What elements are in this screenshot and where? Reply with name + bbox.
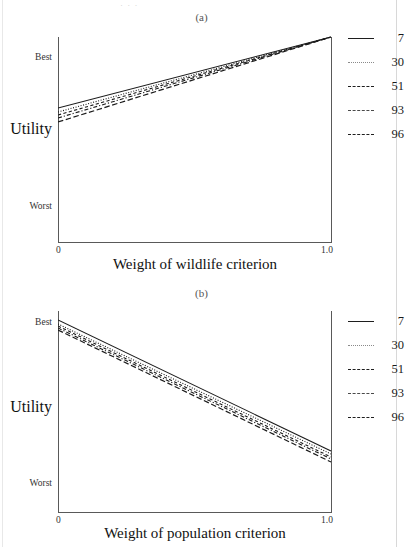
legend-swatch-7-b: [348, 321, 374, 322]
subplot-label-b: (b): [0, 287, 403, 299]
series-line-93-b: [58, 328, 331, 459]
x-tick-0-b: 0: [56, 515, 61, 525]
legend-swatch-7-a: [348, 38, 374, 39]
legend-row-51-a[interactable]: 51: [348, 78, 408, 96]
legend-row-7-a[interactable]: 7: [348, 30, 408, 48]
legend-label-93-b: 93: [378, 385, 404, 402]
legend-swatch-51-a: [348, 86, 374, 87]
series-line-51-b: [58, 326, 331, 457]
y-axis-worst-label-b: Worst: [8, 478, 52, 488]
legend-swatch-96-b: [348, 417, 374, 418]
series-line-96-a: [58, 37, 331, 122]
y-axis-best-label-a: Best: [8, 52, 52, 62]
legend-label-51-a: 51: [378, 78, 404, 95]
legend-swatch-30-a: [348, 62, 374, 63]
legend-swatch-30-b: [348, 345, 374, 346]
legend-swatch-51-b: [348, 369, 374, 370]
legend-row-96-a[interactable]: 96: [348, 126, 408, 144]
y-axis-worst-label-a: Worst: [8, 201, 52, 211]
chart-panel-a: (a) Best Utility Worst 0 1.0 Weight of w…: [0, 0, 403, 280]
x-tick-1-b: 1.0: [321, 515, 333, 525]
legend-row-30-b[interactable]: 30: [348, 337, 408, 355]
series-line-7-b: [58, 320, 331, 451]
x-tick-1-a: 1.0: [321, 245, 333, 255]
legend-row-30-a[interactable]: 30: [348, 54, 408, 72]
x-axis-title-b: Weight of population criterion: [58, 525, 332, 542]
x-tick-0-a: 0: [56, 245, 61, 255]
legend-label-30-b: 30: [378, 337, 404, 354]
legend-row-51-b[interactable]: 51: [348, 361, 408, 379]
y-axis-best-label-b: Best: [8, 317, 52, 327]
legend-label-7-a: 7: [378, 30, 404, 47]
legend-swatch-93-b: [348, 393, 374, 394]
series-line-96-b: [58, 330, 331, 462]
legend-row-93-a[interactable]: 93: [348, 102, 408, 120]
legend-row-7-b[interactable]: 7: [348, 313, 408, 331]
y-axis-title-b: Utility: [2, 398, 52, 416]
series-line-30-b: [58, 324, 331, 454]
legend-swatch-93-a: [348, 110, 374, 111]
y-axis-title-a: Utility: [2, 120, 52, 138]
legend-row-96-b[interactable]: 96: [348, 409, 408, 427]
legend-label-30-a: 30: [378, 54, 404, 71]
legend-label-96-b: 96: [378, 409, 404, 426]
series-plot-b: [58, 311, 332, 513]
series-line-7-a: [58, 37, 331, 108]
legend-label-96-a: 96: [378, 126, 404, 143]
legend-label-7-b: 7: [378, 313, 404, 330]
legend-swatch-96-a: [348, 134, 374, 135]
chart-panel-b: (b) Best Utility Worst 0 1.0 Weight of p…: [0, 280, 403, 547]
legend-label-93-a: 93: [378, 102, 404, 119]
subplot-label-a: (a): [0, 11, 403, 23]
legend-row-93-b[interactable]: 93: [348, 385, 408, 403]
x-axis-title-a: Weight of wildlife criterion: [58, 256, 332, 273]
legend-label-51-b: 51: [378, 361, 404, 378]
series-plot-a: [58, 30, 332, 245]
